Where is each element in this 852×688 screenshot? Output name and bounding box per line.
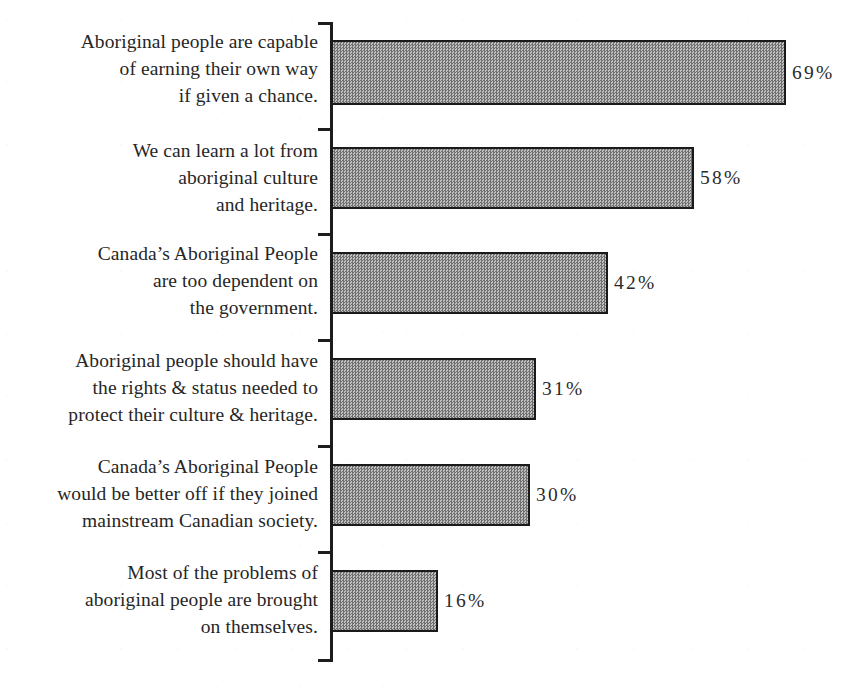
axis-tick	[318, 22, 331, 25]
axis-tick	[318, 339, 331, 342]
category-label: We can learn a lot from aboriginal cultu…	[8, 137, 318, 218]
category-label-line: and heritage.	[8, 191, 318, 218]
category-label-line: would be better off if they joined	[8, 480, 318, 507]
bar[interactable]	[331, 147, 694, 209]
category-axis-line	[330, 22, 333, 662]
bar[interactable]	[331, 358, 536, 420]
category-label-line: We can learn a lot from	[8, 137, 318, 164]
bar-value-label: 30%	[536, 484, 578, 506]
category-label-line: if given a chance.	[8, 82, 318, 109]
axis-tick	[318, 128, 331, 131]
bar-value-label: 69%	[792, 62, 834, 84]
category-label-line: Aboriginal people are capable	[8, 28, 318, 55]
bar-chart-plot-area: Aboriginal people are capable of earning…	[0, 0, 852, 688]
bar-value-label: 42%	[614, 272, 656, 294]
category-label-line: are too dependent on	[8, 267, 318, 294]
bar[interactable]	[331, 570, 438, 632]
bar[interactable]	[331, 464, 530, 526]
bar[interactable]	[331, 40, 786, 105]
category-label-line: the rights & status needed to	[8, 374, 318, 401]
category-label-line: Aboriginal people should have	[8, 347, 318, 374]
bar-value-label: 58%	[700, 167, 742, 189]
axis-tick	[318, 233, 331, 236]
category-label-line: Canada’s Aboriginal People	[8, 453, 318, 480]
category-label: Aboriginal people should have the rights…	[8, 347, 318, 428]
axis-tick	[318, 551, 331, 554]
category-label: Canada’s Aboriginal People would be bett…	[8, 453, 318, 534]
category-label-line: aboriginal culture	[8, 164, 318, 191]
axis-tick	[318, 659, 331, 662]
category-label-line: of earning their own way	[8, 55, 318, 82]
category-label-line: on themselves.	[8, 613, 318, 640]
bar-value-label: 16%	[444, 590, 486, 612]
category-label-line: Most of the problems of	[8, 559, 318, 586]
category-label-line: mainstream Canadian society.	[8, 507, 318, 534]
category-label: Canada’s Aboriginal People are too depen…	[8, 240, 318, 321]
category-label: Most of the problems of aboriginal peopl…	[8, 559, 318, 640]
category-label-line: aboriginal people are brought	[8, 586, 318, 613]
category-label-line: Canada’s Aboriginal People	[8, 240, 318, 267]
category-label-line: protect their culture & heritage.	[8, 401, 318, 428]
category-label: Aboriginal people are capable of earning…	[8, 28, 318, 109]
category-label-line: the government.	[8, 294, 318, 321]
bar-value-label: 31%	[542, 378, 584, 400]
bar[interactable]	[331, 252, 608, 314]
axis-tick	[318, 445, 331, 448]
